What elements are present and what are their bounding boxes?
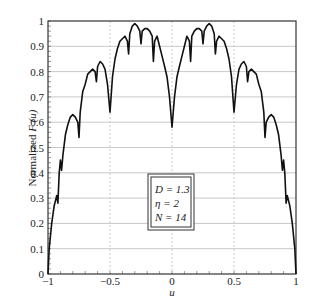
y-tick-label: 0.3 — [30, 192, 44, 204]
y-tick-label: 1 — [39, 15, 45, 27]
y-tick-label: 0.1 — [30, 243, 44, 255]
y-tick-label: 0.8 — [30, 66, 44, 78]
x-tick-label: −1 — [42, 275, 54, 287]
y-tick-label: 0.9 — [30, 40, 44, 52]
y-tick-label: 0.7 — [30, 91, 44, 103]
legend-entry-eta: η = 2 — [155, 197, 179, 209]
grid-lines — [48, 21, 296, 274]
legend-entry-n: N = 14 — [154, 211, 187, 223]
x-tick-label: −0.5 — [100, 275, 120, 287]
y-axis-label: Normalized F (u) — [26, 109, 39, 186]
legend-box: D = 1.3 η = 2 N = 14 — [148, 174, 194, 230]
x-tick-label: 0.5 — [227, 275, 241, 287]
x-tick-label: 1 — [293, 275, 299, 287]
y-tick-label: 0.2 — [30, 217, 44, 229]
x-axis-label: u — [169, 286, 175, 298]
legend-entry-d: D = 1.3 — [154, 183, 190, 195]
chart: 00.10.20.30.40.50.60.70.80.91 −1−0.500.5… — [0, 0, 311, 305]
